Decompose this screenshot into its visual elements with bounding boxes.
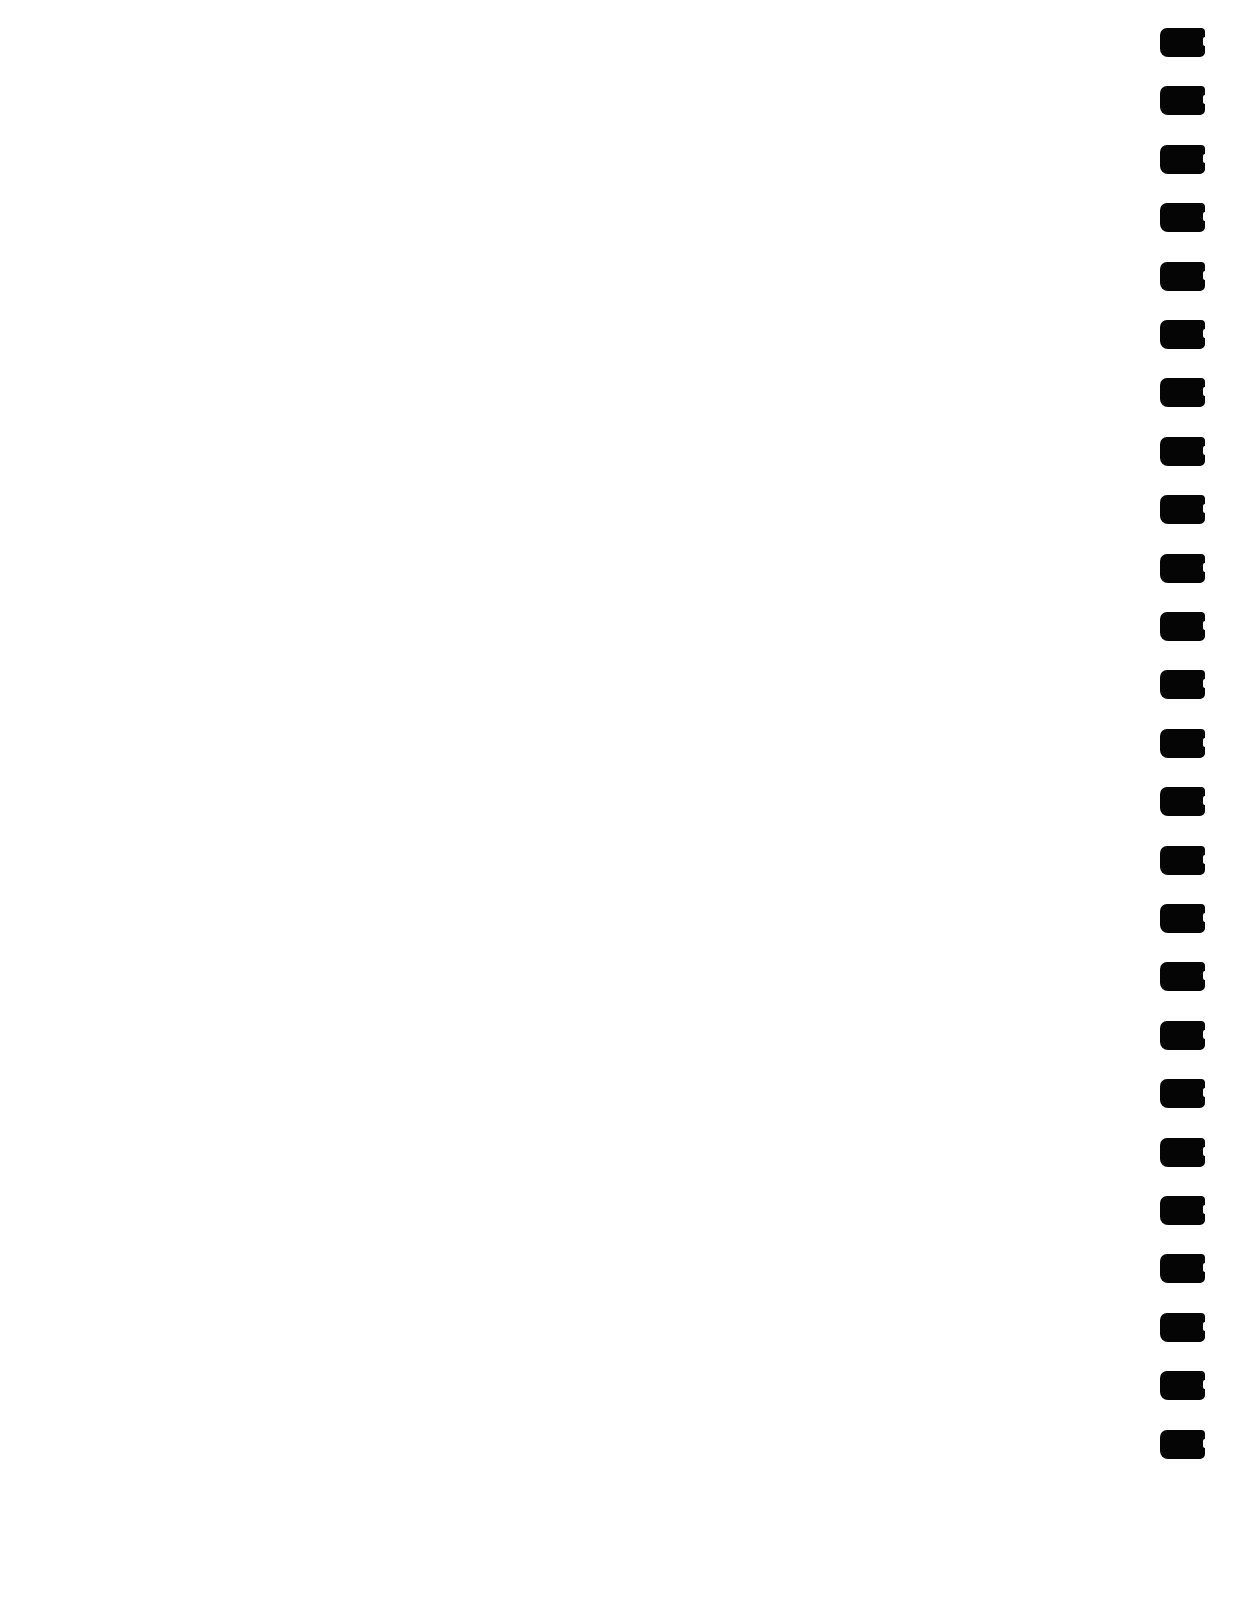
punch-hole [1160,262,1205,291]
punch-hole [1160,145,1205,174]
punch-hole [1160,203,1205,232]
scanned-blank-page [0,0,1247,1602]
punch-hole [1160,554,1205,583]
punch-hole [1160,787,1205,816]
punch-hole [1160,1196,1205,1225]
punch-hole [1160,1138,1205,1167]
punch-hole [1160,1430,1205,1459]
punch-hole [1160,28,1205,57]
punch-hole [1160,1371,1205,1400]
punch-hole [1160,729,1205,758]
punch-hole [1160,1021,1205,1050]
punch-hole [1160,86,1205,115]
punch-hole [1160,1313,1205,1342]
punch-hole [1160,846,1205,875]
punch-hole [1160,1254,1205,1283]
punch-hole [1160,904,1205,933]
punch-hole [1160,378,1205,407]
punch-hole [1160,962,1205,991]
page-body-blank [0,0,1140,1602]
punch-hole [1160,495,1205,524]
binding-punch-strip [1155,0,1215,1602]
punch-hole [1160,320,1205,349]
punch-hole [1160,1079,1205,1108]
punch-hole [1160,612,1205,641]
punch-hole [1160,437,1205,466]
punch-hole [1160,670,1205,699]
